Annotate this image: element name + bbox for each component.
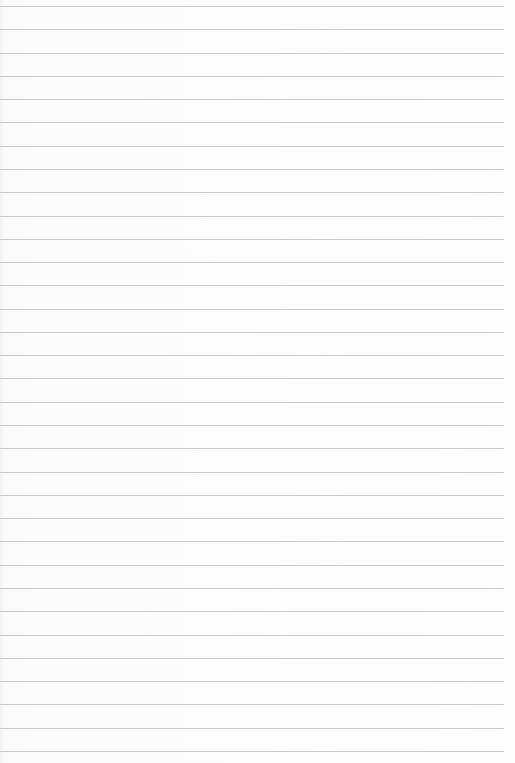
ruled-line xyxy=(0,309,504,310)
ruled-line xyxy=(0,588,504,589)
ruled-line xyxy=(0,192,504,193)
ruled-line xyxy=(0,169,504,170)
ruled-line xyxy=(0,262,504,263)
ruled-line xyxy=(0,541,504,542)
ruled-line xyxy=(0,99,504,100)
ruled-line xyxy=(0,146,504,147)
ruled-line xyxy=(0,448,504,449)
ruled-line xyxy=(0,402,504,403)
ruled-line xyxy=(0,704,504,705)
ruled-line xyxy=(0,681,504,682)
lined-paper-sheet xyxy=(0,0,515,763)
ruled-line xyxy=(0,728,504,729)
ruled-line xyxy=(0,332,504,333)
ruled-line xyxy=(0,122,504,123)
ruled-line xyxy=(0,518,504,519)
ruled-line xyxy=(0,425,504,426)
ruled-line xyxy=(0,239,504,240)
ruled-line xyxy=(0,658,504,659)
ruled-line xyxy=(0,565,504,566)
ruled-line xyxy=(0,355,504,356)
ruled-line xyxy=(0,216,504,217)
ruled-line xyxy=(0,6,504,7)
ruled-line xyxy=(0,495,504,496)
ruled-line xyxy=(0,29,504,30)
ruled-line xyxy=(0,472,504,473)
ruled-line xyxy=(0,378,504,379)
ruled-line xyxy=(0,53,504,54)
ruled-line xyxy=(0,751,504,752)
ruled-line xyxy=(0,76,504,77)
ruled-line xyxy=(0,611,504,612)
ruled-line xyxy=(0,635,504,636)
ruled-line xyxy=(0,285,504,286)
